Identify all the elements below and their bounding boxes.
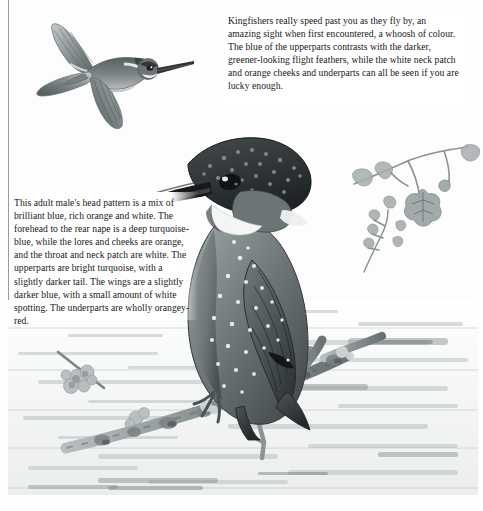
kingfisher-in-flight (18, 14, 196, 136)
caption-flight-text: Kingfishers really speed past you as the… (228, 14, 460, 93)
caption-plumage-text: This adult male's head pattern is a mix … (14, 196, 194, 327)
caption-plumage-description: This adult male's head pattern is a mix … (14, 196, 194, 327)
illustration-page: Kingfishers really speed past you as the… (0, 0, 483, 511)
caption-flight-description: Kingfishers really speed past you as the… (228, 14, 460, 93)
